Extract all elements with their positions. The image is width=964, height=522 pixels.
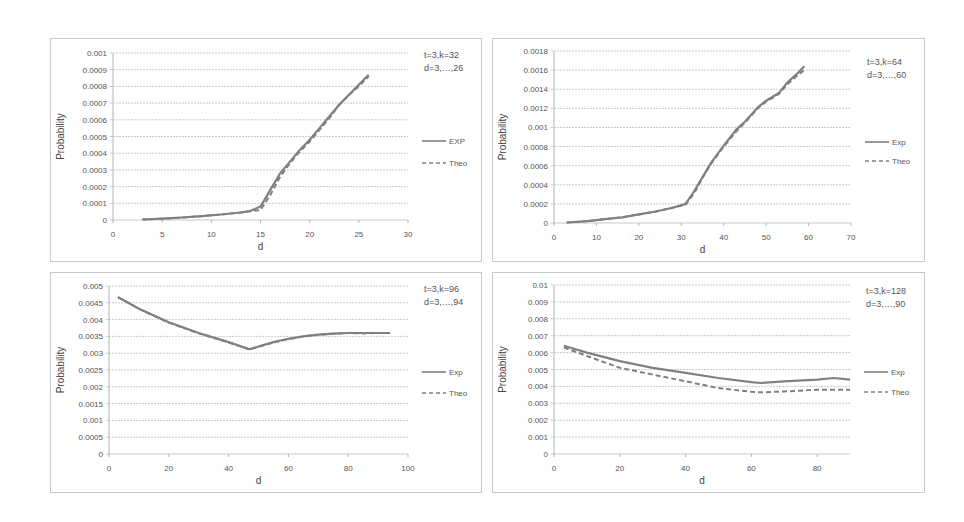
annotation-line: d=3,…,94 bbox=[424, 296, 463, 309]
y-tick-label: 0.0005 bbox=[79, 433, 104, 442]
x-tick-label: 40 bbox=[681, 464, 690, 473]
chart-panel-1: 00.00010.00020.00030.00040.00050.00060.0… bbox=[50, 38, 482, 262]
x-tick-label: 30 bbox=[404, 230, 413, 239]
chart-annotation: t=3,k=32d=3,…,26 bbox=[424, 49, 463, 75]
annotation-line: d=3,…,90 bbox=[866, 298, 906, 311]
y-tick-label: 0.001 bbox=[528, 123, 549, 132]
y-tick-label: 0 bbox=[544, 219, 549, 228]
x-tick-label: 5 bbox=[160, 230, 165, 239]
y-tick-label: 0.001 bbox=[87, 49, 108, 58]
y-tick-label: 0.0008 bbox=[83, 82, 108, 91]
y-tick-label: 0.005 bbox=[83, 282, 104, 291]
x-tick-label: 60 bbox=[804, 233, 813, 242]
x-tick-label: 60 bbox=[284, 464, 293, 473]
chart-svg: 00.00020.00040.00060.00080.0010.00120.00… bbox=[493, 39, 926, 263]
y-tick-label: 0.0001 bbox=[83, 199, 108, 208]
legend-label: Exp bbox=[449, 368, 463, 377]
x-tick-label: 15 bbox=[256, 230, 265, 239]
series-line-exp bbox=[118, 297, 390, 349]
y-tick-label: 0.006 bbox=[528, 349, 549, 358]
x-tick-label: 70 bbox=[847, 233, 856, 242]
y-tick-label: 0.0045 bbox=[79, 299, 104, 308]
x-tick-label: 0 bbox=[107, 464, 112, 473]
y-tick-label: 0.0007 bbox=[83, 99, 108, 108]
x-axis-label: d bbox=[700, 244, 706, 255]
y-tick-label: 0.0006 bbox=[524, 162, 549, 171]
annotation-line: d=3,…,60 bbox=[867, 69, 906, 82]
annotation-line: d=3,…,26 bbox=[424, 62, 463, 75]
annotation-line: t=3,k=32 bbox=[424, 49, 463, 62]
y-tick-label: 0.002 bbox=[83, 383, 104, 392]
x-tick-label: 20 bbox=[164, 464, 173, 473]
annotation-line: t=3,k=96 bbox=[424, 283, 463, 296]
y-tick-label: 0.0003 bbox=[83, 166, 108, 175]
chart-svg: 00.00050.0010.00150.0020.00250.0030.0035… bbox=[51, 273, 483, 494]
x-tick-label: 40 bbox=[224, 464, 233, 473]
x-tick-label: 30 bbox=[677, 233, 686, 242]
annotation-line: t=3,k=128 bbox=[866, 285, 906, 298]
y-tick-label: 0 bbox=[103, 216, 108, 225]
y-tick-label: 0.004 bbox=[83, 316, 104, 325]
legend-label: EXP bbox=[449, 137, 465, 146]
y-tick-label: 0.0014 bbox=[524, 85, 549, 94]
chart-svg: 00.0010.0020.0030.0040.0050.0060.0070.00… bbox=[493, 273, 926, 494]
y-tick-label: 0.0004 bbox=[524, 181, 549, 190]
y-tick-label: 0.003 bbox=[83, 349, 104, 358]
chart-annotation: t=3,k=96d=3,…,94 bbox=[424, 283, 463, 309]
legend-label: Theo bbox=[449, 389, 468, 398]
y-tick-label: 0.0025 bbox=[79, 366, 104, 375]
x-tick-label: 25 bbox=[354, 230, 363, 239]
x-tick-label: 20 bbox=[634, 233, 643, 242]
y-tick-label: 0.0005 bbox=[83, 133, 108, 142]
series-line-exp bbox=[143, 75, 369, 220]
x-tick-label: 80 bbox=[813, 464, 822, 473]
chart-svg: 00.00010.00020.00030.00040.00050.00060.0… bbox=[51, 39, 483, 263]
chart-annotation: t=3,k=64d=3,…,60 bbox=[867, 56, 906, 82]
legend-label: Theo bbox=[891, 388, 910, 397]
y-tick-label: 0.0002 bbox=[83, 183, 108, 192]
y-tick-label: 0 bbox=[544, 450, 549, 459]
y-tick-label: 0.009 bbox=[528, 298, 549, 307]
x-tick-label: 60 bbox=[747, 464, 756, 473]
y-axis-label: Probability bbox=[497, 346, 508, 393]
x-tick-label: 0 bbox=[552, 464, 557, 473]
series-line-theo bbox=[118, 297, 390, 349]
y-tick-label: 0.0002 bbox=[524, 200, 549, 209]
legend-label: Exp bbox=[891, 368, 905, 377]
y-tick-label: 0.003 bbox=[528, 399, 549, 408]
chart-panel-2: 00.00020.00040.00060.00080.0010.00120.00… bbox=[492, 38, 925, 262]
y-tick-label: 0.0015 bbox=[79, 400, 104, 409]
chart-panel-4: 00.0010.0020.0030.0040.0050.0060.0070.00… bbox=[492, 272, 925, 493]
y-tick-label: 0.0004 bbox=[83, 149, 108, 158]
x-tick-label: 50 bbox=[762, 233, 771, 242]
legend-label: Exp bbox=[892, 138, 906, 147]
chart-annotation: t=3,k=128d=3,…,90 bbox=[866, 285, 906, 311]
annotation-line: t=3,k=64 bbox=[867, 56, 906, 69]
chart-panel-3: 00.00050.0010.00150.0020.00250.0030.0035… bbox=[50, 272, 482, 493]
y-axis-label: Probability bbox=[55, 347, 66, 394]
y-tick-label: 0.005 bbox=[528, 366, 549, 375]
x-tick-label: 80 bbox=[344, 464, 353, 473]
x-axis-label: d bbox=[258, 241, 264, 252]
y-tick-label: 0.0008 bbox=[524, 143, 549, 152]
y-tick-label: 0.01 bbox=[532, 281, 548, 290]
y-tick-label: 0.002 bbox=[528, 416, 549, 425]
x-tick-label: 20 bbox=[615, 464, 624, 473]
y-tick-label: 0.001 bbox=[528, 433, 549, 442]
legend-label: Theo bbox=[892, 157, 911, 166]
y-tick-label: 0.0035 bbox=[79, 332, 104, 341]
y-tick-label: 0.001 bbox=[83, 416, 104, 425]
x-axis-label: d bbox=[699, 475, 705, 486]
y-tick-label: 0.008 bbox=[528, 315, 549, 324]
x-axis-label: d bbox=[256, 475, 262, 486]
y-tick-label: 0.0006 bbox=[83, 116, 108, 125]
series-line-exp bbox=[567, 66, 805, 222]
y-axis-label: Probability bbox=[55, 113, 66, 160]
y-tick-label: 0.0012 bbox=[524, 104, 549, 113]
y-tick-label: 0.007 bbox=[528, 332, 549, 341]
x-tick-label: 10 bbox=[592, 233, 601, 242]
series-line-theo bbox=[143, 76, 369, 219]
series-line-exp bbox=[564, 346, 850, 383]
y-tick-label: 0 bbox=[99, 450, 104, 459]
x-tick-label: 0 bbox=[111, 230, 116, 239]
